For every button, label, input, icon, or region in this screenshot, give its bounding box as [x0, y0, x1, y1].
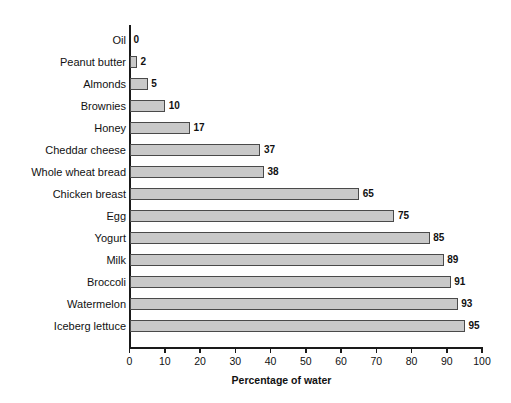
bar-row: Oil0 [0, 33, 511, 55]
bar-value-label: 37 [264, 143, 275, 156]
x-axis-tick-label: 10 [145, 355, 185, 367]
bar-value-label: 10 [169, 99, 180, 112]
bar-value-label: 17 [193, 121, 204, 134]
category-label: Chicken breast [53, 187, 126, 201]
bar-row: Watermelon93 [0, 297, 511, 319]
bar-row: Milk89 [0, 253, 511, 275]
bar-row: Yogurt85 [0, 231, 511, 253]
x-axis-tick-label: 100 [462, 355, 502, 367]
bar-row: Brownies10 [0, 99, 511, 121]
x-axis-tick-label: 40 [251, 355, 291, 367]
bar [130, 254, 444, 266]
bar-row: Cheddar cheese37 [0, 143, 511, 165]
x-axis-title: Percentage of water [0, 374, 511, 386]
category-label: Almonds [83, 77, 126, 91]
category-label: Yogurt [95, 231, 126, 245]
bar-row: Honey17 [0, 121, 511, 143]
bar-value-label: 38 [267, 165, 278, 178]
bar [130, 166, 264, 178]
x-axis-tick-label: 20 [180, 355, 220, 367]
category-label: Broccoli [87, 275, 126, 289]
bar [130, 276, 451, 288]
category-label: Brownies [81, 99, 126, 113]
x-axis-tick [164, 348, 166, 353]
x-axis-tick-label: 80 [392, 355, 432, 367]
bar-value-label: 85 [433, 231, 444, 244]
bar [130, 122, 190, 134]
bar [130, 188, 359, 200]
x-axis-tick [481, 348, 483, 353]
x-axis-tick [376, 348, 378, 353]
category-label: Whole wheat bread [31, 165, 126, 179]
bar-value-label: 93 [461, 297, 472, 310]
bar-value-label: 91 [454, 275, 465, 288]
x-axis-tick-label: 0 [110, 355, 150, 367]
bar-row: Egg75 [0, 209, 511, 231]
bar-value-label: 5 [151, 77, 157, 90]
bar [130, 56, 137, 68]
bar-value-label: 95 [468, 319, 479, 332]
bar-row: Peanut butter2 [0, 55, 511, 77]
x-axis-tick [411, 348, 413, 353]
category-label: Peanut butter [60, 55, 126, 69]
bar [130, 144, 260, 156]
bar-value-label: 2 [141, 55, 147, 68]
x-axis-tick [235, 348, 237, 353]
bar-row: Whole wheat bread38 [0, 165, 511, 187]
category-label: Oil [113, 33, 126, 47]
bar [130, 100, 165, 112]
category-label: Honey [94, 121, 126, 135]
bar-value-label: 65 [363, 187, 374, 200]
x-axis-tick-label: 30 [215, 355, 255, 367]
bar-row: Broccoli91 [0, 275, 511, 297]
x-axis-tick [340, 348, 342, 353]
x-axis-tick-label: 60 [321, 355, 361, 367]
category-label: Watermelon [67, 297, 126, 311]
bar-value-label: 0 [134, 33, 140, 46]
category-label: Egg [106, 209, 126, 223]
bar-chart: 0102030405060708090100 Oil0Peanut butter… [0, 0, 511, 403]
x-axis-tick [199, 348, 201, 353]
bar-value-label: 89 [447, 253, 458, 266]
bar-value-label: 75 [398, 209, 409, 222]
bar [130, 298, 458, 310]
x-axis-tick-label: 50 [286, 355, 326, 367]
x-axis-tick [129, 348, 131, 353]
category-label: Cheddar cheese [45, 143, 126, 157]
bar-row: Almonds5 [0, 77, 511, 99]
category-label: Milk [106, 253, 126, 267]
bar [130, 78, 148, 90]
bar [130, 232, 430, 244]
bar [130, 320, 465, 332]
bar [130, 210, 394, 222]
bar-row: Iceberg lettuce95 [0, 319, 511, 341]
x-axis-tick [446, 348, 448, 353]
x-axis-tick [270, 348, 272, 353]
category-label: Iceberg lettuce [54, 319, 126, 333]
x-axis-tick-label: 90 [427, 355, 467, 367]
bar-row: Chicken breast65 [0, 187, 511, 209]
x-axis-tick-label: 70 [356, 355, 396, 367]
x-axis-tick [305, 348, 307, 353]
